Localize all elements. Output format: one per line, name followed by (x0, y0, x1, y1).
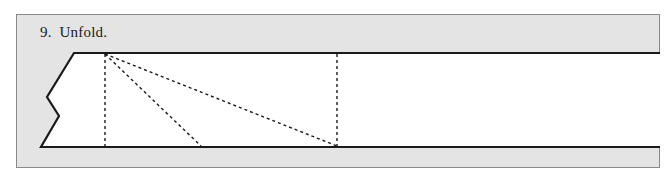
paper-strip (41, 53, 660, 147)
fold-diagram (0, 0, 672, 181)
